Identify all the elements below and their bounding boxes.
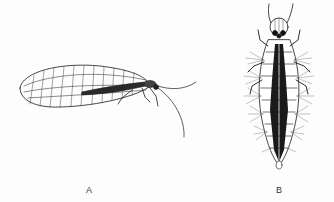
panel-label-b: B	[276, 186, 282, 195]
adult-lacewing-drawing	[20, 65, 196, 137]
illustration-canvas	[0, 0, 334, 202]
lacewing-larva-drawing	[244, 4, 314, 169]
scientific-figure: A B	[0, 0, 334, 202]
panel-label-a: A	[86, 186, 92, 195]
